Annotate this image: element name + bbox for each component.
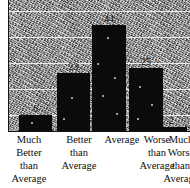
x-label-line: Average [157, 172, 190, 185]
x-label-line: Better [3, 146, 55, 159]
x-label-line: than [157, 159, 190, 172]
y-axis-line [8, 0, 9, 132]
x-label-line: Average [3, 172, 55, 185]
bar-chart: 6 23 44 25 2 Much Better than Average Be… [0, 0, 190, 188]
bar-much-worse-than-average [155, 127, 187, 131]
x-axis-line [8, 131, 190, 132]
bar-value-much-better-than-average: 6 [19, 104, 52, 114]
x-label-much-better-than-average: Much Better than Average [3, 133, 55, 185]
x-label-line: Better [54, 133, 104, 146]
x-label-line: than [54, 146, 104, 159]
bar-much-better-than-average [19, 115, 52, 131]
x-label-line: Average [54, 159, 104, 172]
x-label-line: Much [3, 133, 55, 146]
bar-value-better-than-average: 23 [57, 62, 90, 72]
x-axis-labels: Much Better than Average Better than Ave… [9, 133, 190, 188]
x-label-line: Much [157, 133, 190, 146]
x-label-much-worse-than-average: Much Worse than Average [157, 133, 190, 185]
bar-value-average: 44 [92, 14, 126, 24]
bar-value-much-worse-than-average: 2 [155, 116, 187, 126]
bar-average [92, 25, 126, 131]
x-label-line: than [3, 159, 55, 172]
gridline-50 [9, 11, 190, 12]
bar-better-than-average [57, 73, 90, 131]
x-label-better-than-average: Better than Average [54, 133, 104, 172]
x-label-line: Worse [157, 146, 190, 159]
bar-value-worse-than-average: 25 [129, 57, 163, 67]
